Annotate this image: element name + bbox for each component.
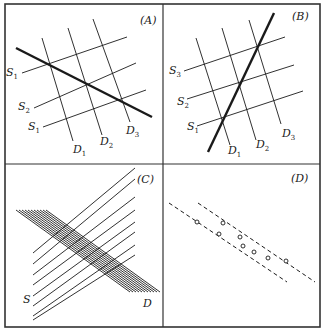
demand-curve [93,19,130,122]
demand-label: D3 [125,124,139,139]
supply-label: S2 [177,95,189,110]
demand-curve [68,28,102,135]
supply-label: S1 [28,120,40,135]
panel-a: (A)S1S2S1D1D2D3 [6,14,157,158]
demand-label: D3 [281,127,295,142]
supply-curve [22,37,127,73]
demand-curve [43,210,157,292]
demand-curve [196,38,230,145]
observation-point [217,232,221,236]
panel-b: (B)S3S2S1D1D2D3 [169,10,309,159]
demand-label: D1 [72,143,86,158]
supply-label: S [23,293,31,306]
demand-curve [34,210,148,292]
demand-curve [25,210,139,292]
supply-curve [43,90,146,127]
supply-label: S1 [6,66,18,81]
demand-label: D [142,297,152,310]
demand-label: D2 [99,135,113,150]
observation-point [221,221,225,225]
supply-label: S1 [187,120,199,135]
demand-label: D2 [255,138,269,153]
observation-point [238,235,242,239]
observation-point [284,259,288,263]
demand-curve [16,210,130,292]
panel-c: (C)SD [16,168,160,320]
supply-curve [184,37,285,71]
panel-label-c: (C) [137,173,154,186]
observation-point [241,244,245,248]
demand-curve [249,20,281,124]
panel-label-d: (D) [291,172,308,185]
demand-curve [46,210,160,292]
supply-label: S2 [18,100,30,115]
observation-point [252,250,256,254]
demand-label: D1 [227,144,241,159]
equilibrium-locus-line [208,13,274,152]
panel-label-b: (B) [292,10,309,23]
panel-d: (D) [169,172,315,282]
observation-point [266,256,270,260]
economics-figure: (A)S1S2S1D1D2D3 (B)S3S2S1D1D2D3 (C)SD (D… [0,0,324,331]
supply-label: S3 [169,64,181,79]
supply-curve [33,168,135,253]
dashed-boundary-line [169,203,287,282]
panel-label-a: (A) [140,14,157,27]
observation-point [195,220,199,224]
dashed-boundary-line [198,203,315,282]
